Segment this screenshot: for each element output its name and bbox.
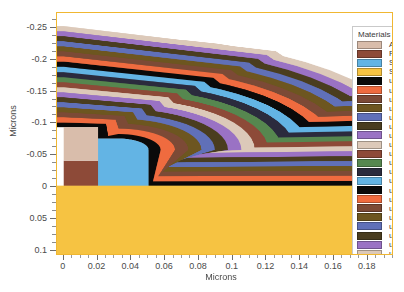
legend-item[interactable]: user 5	[357, 113, 393, 122]
legend-item-label: user 1	[389, 76, 393, 85]
x-tick-minor	[308, 255, 309, 258]
x-axis-label: Microns	[56, 272, 386, 282]
x-tick-label: 0	[60, 261, 65, 271]
legend-swatch-icon	[357, 131, 382, 139]
legend-swatch-icon	[357, 77, 382, 85]
y-tick	[50, 27, 56, 28]
x-tick-label: 0.12	[257, 261, 275, 271]
x-tick	[232, 255, 233, 260]
y-tick-minor	[52, 75, 56, 76]
x-tick-minor	[71, 255, 72, 258]
x-tick-minor	[122, 255, 123, 258]
legend-item-label: SiO2	[389, 58, 393, 67]
legend-item[interactable]: user 11	[357, 167, 393, 176]
y-tick-minor	[52, 130, 56, 131]
legend-item[interactable]: user 9	[357, 149, 393, 158]
x-tick	[63, 255, 64, 260]
y-tick-minor	[52, 83, 56, 84]
y-tick-minor	[52, 210, 56, 211]
y-tick-minor	[52, 19, 56, 20]
legend-swatch-icon	[357, 86, 382, 94]
x-tick-minor	[358, 255, 359, 258]
y-tick-label: -0.2	[31, 54, 47, 64]
legend-item-label: user 5	[389, 113, 393, 122]
x-tick-minor	[189, 255, 190, 258]
legend-item[interactable]: user 6	[357, 122, 393, 131]
x-tick-minor	[257, 255, 258, 258]
legend-item[interactable]: user 13	[357, 186, 393, 195]
x-tick-minor	[316, 255, 317, 258]
legend-item[interactable]: user 10	[357, 158, 393, 167]
legend-item[interactable]: user 15	[357, 204, 393, 213]
x-tick-minor	[240, 255, 241, 258]
y-tick-minor	[52, 35, 56, 36]
x-tick-minor	[249, 255, 250, 258]
x-tick-minor	[350, 255, 351, 258]
x-tick	[164, 255, 165, 260]
x-tick-minor	[181, 255, 182, 258]
legend-swatch-icon	[357, 95, 382, 103]
legend-swatch-icon	[357, 141, 382, 149]
x-axis-ticks: 00.020.040.060.080.10.120.140.160.18	[56, 255, 393, 273]
legend-item[interactable]: user 1	[357, 76, 393, 85]
legend-item[interactable]: user 17	[357, 222, 393, 231]
legend-item[interactable]: SiO2	[357, 58, 393, 67]
x-tick	[299, 255, 300, 260]
y-tick	[50, 186, 56, 187]
legend-item[interactable]: Polysilicon	[357, 49, 393, 58]
legend-item[interactable]: user 7	[357, 131, 393, 140]
legend-item[interactable]: user 2	[357, 85, 393, 94]
y-tick-label: 0	[42, 181, 47, 191]
y-tick-minor	[52, 242, 56, 243]
legend-swatch-icon	[357, 204, 382, 212]
x-tick-label: 0.14	[290, 261, 308, 271]
legend-item[interactable]: user 16	[357, 213, 393, 222]
legend-swatch-icon	[357, 168, 382, 176]
legend-item[interactable]: user 19	[357, 240, 393, 249]
y-tick	[50, 154, 56, 155]
y-tick-minor	[52, 194, 56, 195]
y-tick-minor	[52, 202, 56, 203]
legend-item[interactable]: Aluminum	[357, 40, 393, 49]
y-tick-minor	[52, 170, 56, 171]
x-tick	[130, 255, 131, 260]
legend-item-label: user 13	[389, 186, 393, 195]
legend-swatch-icon	[357, 59, 382, 67]
legend-item-label: user 14	[389, 195, 393, 204]
legend-item-label: user 8	[389, 140, 393, 149]
legend-item-label: user 2	[389, 86, 393, 95]
x-tick	[198, 255, 199, 260]
legend-swatch-icon	[357, 50, 382, 58]
x-tick	[333, 255, 334, 260]
x-tick-minor	[80, 255, 81, 258]
legend-item[interactable]: user 12	[357, 176, 393, 185]
legend-swatch-icon	[357, 104, 382, 112]
legend-item-label: user 15	[389, 204, 393, 213]
legend-item[interactable]: user 3	[357, 95, 393, 104]
y-tick-minor	[52, 99, 56, 100]
x-tick-label: 0.1	[225, 261, 238, 271]
x-tick-minor	[113, 255, 114, 258]
legend-item-label: user 3	[389, 95, 393, 104]
legend-rows: AluminumPolysiliconSiO2Siliconuser 1user…	[357, 40, 393, 255]
x-tick-minor	[392, 255, 393, 258]
x-tick-label: 0.02	[88, 261, 106, 271]
legend-item[interactable]: user 14	[357, 195, 393, 204]
x-tick-minor	[291, 255, 292, 258]
x-tick-minor	[147, 255, 148, 258]
y-tick-minor	[52, 178, 56, 179]
materials-legend: Materials AluminumPolysiliconSiO2Silicon…	[352, 26, 393, 255]
x-tick-minor	[88, 255, 89, 258]
legend-item[interactable]: Silicon	[357, 67, 393, 76]
legend-item-label: user 10	[389, 158, 393, 167]
legend-item[interactable]: user 4	[357, 104, 393, 113]
x-tick-label: 0.08	[189, 261, 207, 271]
legend-item[interactable]: user 8	[357, 140, 393, 149]
legend-item-label: user 6	[389, 122, 393, 131]
y-tick-minor	[52, 226, 56, 227]
legend-item[interactable]: user 18	[357, 231, 393, 240]
figure-root: Microns Materials AluminumPolysiliconSiO…	[0, 0, 404, 292]
y-tick-minor	[52, 138, 56, 139]
legend-item-label: user 19	[389, 240, 393, 249]
y-tick-label: -0.15	[26, 86, 47, 96]
